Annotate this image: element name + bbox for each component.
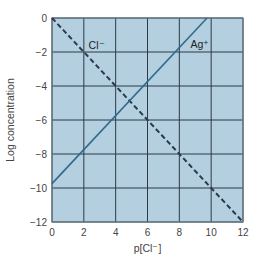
y-tick-label: −4 — [36, 81, 48, 92]
y-tick-label: −6 — [36, 115, 48, 126]
series-label: Cl⁻ — [89, 39, 105, 51]
x-axis-label: p[Cl⁻] — [134, 242, 162, 254]
y-tick-label: −12 — [30, 217, 47, 228]
x-tick-label: 10 — [206, 227, 218, 238]
y-tick-label: 0 — [41, 13, 47, 24]
x-tick-label: 8 — [177, 227, 183, 238]
y-tick-label: −10 — [30, 183, 47, 194]
x-tick-label: 6 — [145, 227, 151, 238]
y-tick-label: −2 — [36, 47, 48, 58]
x-tick-label: 0 — [49, 227, 55, 238]
y-axis-label: Log concentration — [4, 78, 16, 162]
y-tick-label: −8 — [36, 149, 48, 160]
series-label: Ag⁺ — [190, 38, 209, 50]
chart: 0246810120−2−4−6−8−10−12p[Cl⁻]Log concen… — [0, 0, 261, 266]
x-tick-label: 2 — [81, 227, 87, 238]
x-tick-label: 4 — [113, 227, 119, 238]
x-tick-label: 12 — [237, 227, 249, 238]
